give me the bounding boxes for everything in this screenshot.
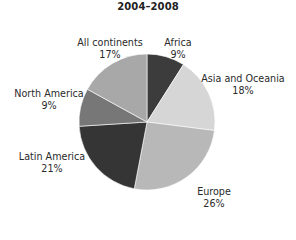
label-north-america-name: North America	[14, 88, 83, 100]
label-north-america-pct: 9%	[14, 100, 83, 112]
label-africa-pct: 9%	[164, 49, 191, 61]
label-north-america: North America 9%	[14, 88, 83, 112]
label-latin-america-pct: 21%	[19, 163, 85, 175]
label-all-continents-pct: 17%	[77, 49, 142, 61]
pie-slice-europe	[134, 122, 214, 190]
label-asia-oceania-pct: 18%	[201, 85, 285, 97]
label-latin-america: Latin America 21%	[19, 151, 85, 175]
pie-slices	[79, 54, 215, 190]
label-all-continents: All continents 17%	[77, 37, 142, 61]
label-europe-name: Europe	[197, 186, 231, 198]
label-latin-america-name: Latin America	[19, 151, 85, 163]
label-europe-pct: 26%	[197, 198, 231, 210]
label-europe: Europe 26%	[197, 186, 231, 210]
label-all-continents-name: All continents	[77, 37, 142, 49]
label-africa-name: Africa	[164, 37, 191, 49]
label-asia-oceania-name: Asia and Oceania	[201, 73, 285, 85]
label-asia-oceania: Asia and Oceania 18%	[201, 73, 285, 97]
label-africa: Africa 9%	[164, 37, 191, 61]
